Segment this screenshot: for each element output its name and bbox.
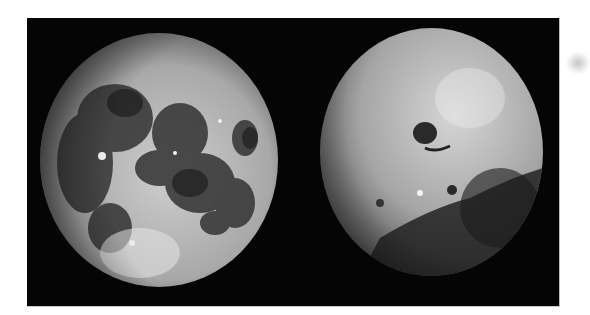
moon-near-side [40,33,278,287]
moon-far-side [320,28,543,276]
scan-smudge [566,52,590,74]
